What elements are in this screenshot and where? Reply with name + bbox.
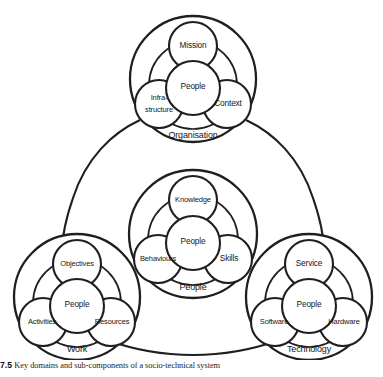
label-technology-core-people: People: [297, 299, 322, 309]
cluster-people[interactable]: Knowledge Behaviours Skills People Peopl…: [129, 170, 257, 298]
cluster-technology[interactable]: Service Software Hardware People Technol…: [246, 234, 372, 360]
label-resources: Resources: [95, 317, 130, 326]
label-people-core-people: People: [181, 236, 206, 246]
figure-container: Mission Infra- structure Context People …: [0, 0, 383, 377]
label-knowledge: Knowledge: [175, 195, 211, 204]
label-skills: Skills: [220, 253, 238, 263]
domain-label-organisation: Organisation: [168, 130, 217, 140]
label-service: Service: [296, 258, 323, 268]
label-organisation-core-people: People: [181, 81, 206, 91]
socio-technical-system-diagram: Mission Infra- structure Context People …: [0, 0, 383, 360]
label-infrastructure-line1: Infra-: [151, 93, 168, 102]
label-work-core-people: People: [65, 299, 90, 309]
figure-caption: 7.5 Key domains and sub-components of a …: [0, 360, 383, 377]
label-activities: Activities: [28, 317, 56, 326]
domain-label-people: People: [179, 282, 206, 292]
cluster-work[interactable]: Objectives Activities Resources People W…: [14, 234, 140, 360]
domain-label-technology: Technology: [287, 344, 332, 354]
label-hardware: Hardware: [328, 317, 359, 326]
figure-caption-number: 7.5: [0, 360, 14, 370]
label-behaviours: Behaviours: [140, 254, 176, 263]
label-mission: Mission: [179, 40, 207, 50]
label-software: Software: [260, 317, 288, 326]
arc-work-to-technology: [107, 340, 279, 355]
domain-label-work: Work: [67, 344, 88, 354]
label-infrastructure-line2: structure: [145, 105, 173, 114]
figure-caption-text: Key domains and sub-components of a soci…: [14, 361, 220, 370]
cluster-organisation[interactable]: Mission Infra- structure Context People …: [130, 16, 256, 142]
label-context: Context: [214, 98, 242, 108]
label-objectives: Objectives: [60, 259, 94, 268]
